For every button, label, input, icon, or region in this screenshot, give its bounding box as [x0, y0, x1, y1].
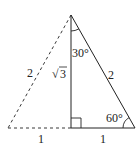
radical-sign: √: [52, 67, 59, 81]
label-base-left: 1: [38, 132, 44, 146]
label-base-right: 1: [100, 132, 106, 146]
label-left-hypotenuse: 2: [27, 66, 33, 80]
angle-arc-top: [71, 29, 79, 31]
angle-arc-right: [123, 118, 129, 128]
label-angle-right: 60°: [106, 111, 123, 125]
triangle-diagram: 2 2 30° 60° 1 1 √ 3: [0, 0, 140, 148]
right-angle-marker: [71, 118, 81, 128]
label-angle-top: 30°: [72, 46, 89, 60]
radicand: 3: [60, 67, 66, 81]
label-altitude-sqrt3: √ 3: [52, 67, 67, 81]
right-hypotenuse: [71, 15, 135, 128]
label-right-hypotenuse: 2: [108, 68, 114, 82]
